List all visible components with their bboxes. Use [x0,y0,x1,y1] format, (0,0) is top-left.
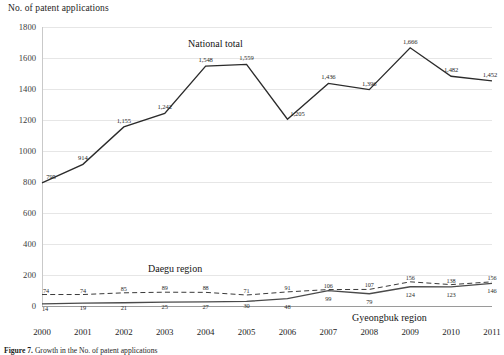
series-line-national-total [42,48,492,183]
point-label: 27 [203,303,209,310]
point-label: 74 [43,287,49,294]
series-label-national-total: National total [188,38,243,49]
point-label: 89 [162,284,168,291]
figure-caption: Figure 7. Growth in the No. of patent ap… [4,346,157,355]
point-label: 106 [324,282,333,289]
point-label: 1,396 [362,80,376,87]
caption-text: Growth in the No. of patent applications [35,346,158,355]
point-label: 107 [365,281,374,288]
point-label: 138 [447,277,456,284]
point-label: 1,155 [117,117,131,124]
point-label: 124 [406,291,415,298]
point-label: 1,436 [321,73,335,80]
point-label: 85 [121,285,127,292]
point-label: 99 [325,295,331,302]
point-label: 1,452 [483,71,497,78]
point-label: 1,205 [290,110,304,117]
point-label: 48 [284,303,290,310]
point-label: 19 [80,304,86,311]
point-label: 74 [80,287,86,294]
point-label: 1,482 [444,66,458,73]
point-label: 1,548 [198,56,212,63]
point-label: 14 [42,305,48,312]
point-label: 21 [121,304,127,311]
series-label-gyeongbuk-region: Gyeongbuk region [352,312,427,323]
point-label: 1,559 [239,54,253,61]
point-label: 30 [243,302,249,309]
point-label: 1,666 [403,38,417,45]
point-label: 156 [488,274,497,281]
point-label: 156 [406,274,415,281]
caption-label: Figure 7. [4,346,33,355]
point-label: 88 [203,284,209,291]
point-label: 795 [46,173,56,180]
point-label: 91 [284,284,290,291]
point-label: 1,242 [158,103,172,110]
series-line-daegu-region [42,282,492,295]
point-label: 71 [244,287,250,294]
point-label: 79 [366,298,372,305]
point-label: 914 [78,154,88,161]
point-label: 146 [487,287,496,294]
series-label-daegu-region: Daegu region [148,263,202,274]
point-label: 25 [162,303,168,310]
point-label: 123 [446,291,455,298]
